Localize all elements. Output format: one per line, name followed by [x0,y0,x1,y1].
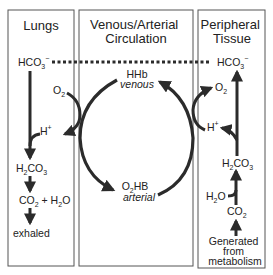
arterial-state-label: arterial [123,191,156,203]
lungs-co2-h2o-label: CO2 + H2O [19,194,70,208]
lungs-o2-uptake-arc [65,93,80,134]
peripheral-h2o-label: H2O [206,190,226,204]
peripheral-panel [198,10,265,268]
peripheral-co2-label: CO2 [227,205,247,219]
peripheral-o2-label: O2 [215,81,227,95]
peripheral-h2o-join [228,190,236,196]
bicarbonate-buffer-diagram: Lungs Venous/Arterial Circulation Periph… [0,0,273,275]
peripheral-title: Peripheral Tissue [201,17,264,46]
peripheral-source-label: Generated from metabolism [208,235,262,267]
arterial-to-venous-arc [158,82,193,195]
lungs-o2-label: O2 [53,84,65,98]
peripheral-h-plus-branch [222,128,237,140]
venous-state-label: venous [120,78,155,90]
lungs-hco3-label: HCO3− [18,55,49,70]
lungs-title: Lungs [23,18,59,33]
lungs-h2co3-label: H2CO3 [16,162,47,176]
lungs-exhaled-label: exhaled [13,227,50,239]
peripheral-h-plus-label: H+ [207,120,219,133]
venous-to-arterial-arc [80,80,117,190]
peripheral-hco3-label: HCO3− [217,55,248,70]
circulation-title: Venous/Arterial Circulation [90,17,182,46]
peripheral-h2co3-label: H2CO3 [222,157,253,171]
circulation-panel [79,10,193,266]
lungs-h-plus-label: H+ [40,124,52,137]
